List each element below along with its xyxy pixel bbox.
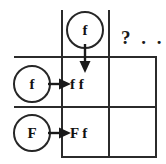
grid-right-vertical-line	[155, 56, 157, 158]
punnett-cell-r0c0-genotype: f f	[70, 77, 84, 92]
top-gamete-arrow-down-icon	[78, 44, 92, 74]
side-gamete-arrow-right-icon-row-2	[48, 126, 72, 140]
grid-middle-horizontal-line	[14, 106, 157, 108]
side-gamete-label-row-1: f	[30, 77, 35, 92]
side-gamete-circle-row-1: f	[13, 65, 51, 103]
punnett-square-diagram: f f F f f F f ? . .	[0, 0, 166, 164]
grid-middle-vertical-line	[108, 10, 110, 158]
side-gamete-label-row-2: F	[27, 126, 36, 141]
top-gamete-label: f	[83, 23, 88, 38]
side-gamete-arrow-right-icon-row-1	[48, 77, 72, 91]
punnett-cell-r1c0-genotype: F f	[70, 126, 87, 141]
question-marker-annotation: ? . .	[121, 28, 165, 47]
side-gamete-circle-row-2: F	[13, 114, 51, 152]
